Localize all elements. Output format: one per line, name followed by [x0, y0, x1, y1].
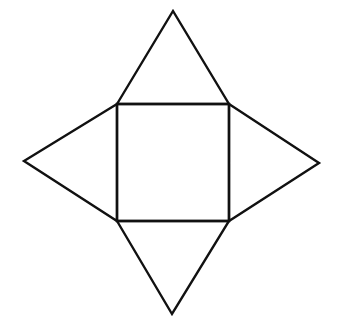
base-square [117, 104, 229, 221]
pyramid-net-diagram [0, 0, 337, 327]
top-triangle-face [117, 11, 229, 104]
left-triangle-face [24, 104, 117, 221]
bottom-triangle-face [117, 221, 229, 314]
right-triangle-face [229, 104, 319, 221]
